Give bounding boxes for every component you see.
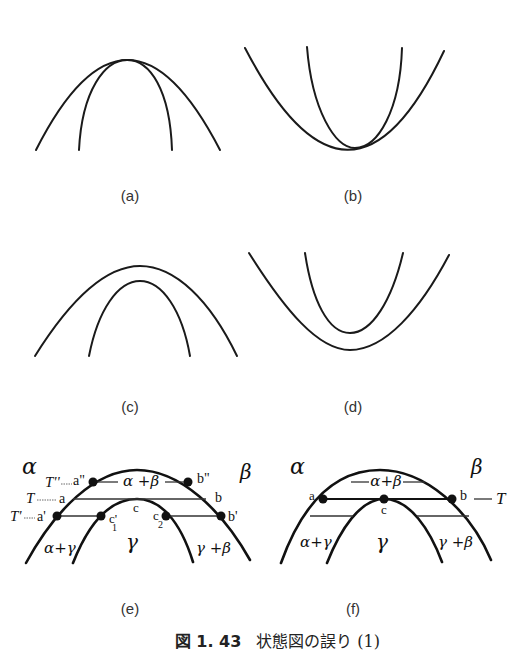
panel-label-f: (f)	[346, 600, 360, 617]
label-alpha-plus-beta: α+β	[370, 472, 402, 490]
label-gamma: γ	[376, 530, 388, 554]
panel-label-e: (e)	[121, 600, 139, 617]
curve-inner-concave-up	[305, 253, 403, 333]
label-T-double-prime: T''	[45, 474, 61, 490]
label-T-prime: T'	[10, 508, 22, 524]
curve-outer-concave-up	[249, 253, 449, 350]
label-point-a-prime: a'	[37, 509, 46, 524]
panel-label-c: (c)	[121, 398, 139, 415]
curve-wide-concave-up	[245, 48, 444, 150]
label-alpha-plus-gamma: α+γ	[44, 539, 76, 557]
panel-b: (b)	[245, 47, 444, 204]
point-b-double-prime	[184, 478, 193, 487]
label-beta: β	[239, 460, 252, 484]
label-point-c: c	[133, 500, 139, 515]
panel-a: (a)	[36, 60, 220, 204]
label-point-c: c	[381, 502, 387, 517]
label-T: T	[26, 490, 36, 506]
label-point-c1-subscript: 1	[112, 522, 117, 533]
caption-text: 状態図の誤り (1)	[256, 632, 380, 651]
panel-d: (d)	[249, 253, 449, 415]
point-b-prime	[217, 512, 226, 521]
figure-caption: 図 1. 43 状態図の誤り (1)	[175, 632, 380, 651]
label-gamma-plus-beta: γ +β	[438, 533, 473, 551]
panel-f: α β γ α+β α+γ γ +β a b c T (f)	[281, 454, 507, 617]
panel-label-b: (b)	[344, 187, 362, 204]
curve-inner-concave-down	[89, 281, 190, 356]
label-T: T	[496, 489, 507, 508]
label-alpha-plus-gamma: α+γ	[300, 533, 332, 551]
label-alpha-plus-beta: α +β	[123, 472, 159, 490]
label-point-b: b	[215, 490, 222, 505]
label-point-a-double-prime: a"	[73, 473, 85, 488]
label-point-c2-subscript: 2	[158, 519, 163, 530]
panel-label-d: (d)	[344, 398, 362, 415]
panel-e: α β γ α +β α+γ γ +β T'' a" b" T a b c T'…	[10, 454, 252, 617]
label-point-a: a	[309, 488, 315, 503]
point-a-prime	[53, 512, 62, 521]
point-b	[448, 495, 457, 504]
point-a-double-prime	[89, 478, 98, 487]
panel-label-a: (a)	[121, 187, 139, 204]
point-a	[319, 495, 328, 504]
label-point-b-prime: b'	[228, 509, 238, 524]
point-c1-prime	[97, 512, 106, 521]
panel-c: (c)	[35, 266, 237, 415]
label-beta: β	[470, 455, 483, 479]
label-point-b: b	[460, 488, 467, 503]
label-alpha: α	[22, 454, 37, 479]
label-alpha: α	[290, 454, 305, 479]
label-gamma-plus-beta: γ +β	[196, 539, 231, 557]
figure-1-43: (a) (b) (c) (d) α	[0, 0, 521, 658]
label-point-b-double-prime: b"	[197, 471, 210, 486]
label-gamma: γ	[126, 530, 138, 554]
label-point-a: a	[59, 491, 66, 506]
curve-outer-concave-down	[35, 266, 237, 356]
caption-number: 図 1. 43	[175, 632, 242, 651]
curve-wide-concave-down	[36, 60, 220, 150]
